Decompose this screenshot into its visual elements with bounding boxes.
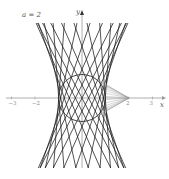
x-axis-arrow-icon xyxy=(162,96,166,100)
ruling-line xyxy=(51,23,124,168)
parameter-label: a = 2 xyxy=(22,11,41,19)
x-tick-label: 2 xyxy=(126,100,130,106)
ruling-line xyxy=(53,23,126,168)
axes: −3−223 xyxy=(6,10,166,168)
ruling-line xyxy=(45,23,77,168)
hyperbola-envelope-diagram: −3−223 a = 2 x y xyxy=(0,0,169,179)
x-tick-label: −2 xyxy=(32,100,40,106)
ruling-line xyxy=(87,23,119,168)
y-axis-arrow-icon xyxy=(80,10,84,15)
x-tick-label: 3 xyxy=(150,100,154,106)
ruling-line xyxy=(38,23,111,168)
ruling-line xyxy=(40,23,113,168)
x-axis-label: x xyxy=(160,101,164,109)
x-tick-label: −3 xyxy=(9,100,18,106)
